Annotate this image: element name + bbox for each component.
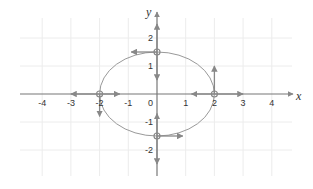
x-tick-label: 1: [183, 98, 188, 108]
grid: [20, 18, 292, 176]
y-axis-label: y: [145, 5, 152, 19]
y-tick-label: -1: [145, 117, 153, 127]
x-axis-label: x: [295, 89, 302, 103]
x-tick-label: 2: [212, 98, 217, 108]
origin-label: 0: [148, 98, 153, 108]
x-tick-label: -1: [124, 98, 132, 108]
y-tick-label: 2: [148, 33, 153, 43]
tick-labels: -4-3-2-1123421-1-20xy: [38, 5, 302, 155]
y-tick-label: 1: [148, 61, 153, 71]
x-tick-label: -3: [67, 98, 75, 108]
ellipse-plot: -4-3-2-1123421-1-20xy: [0, 0, 313, 189]
x-tick-label: 3: [241, 98, 246, 108]
x-tick-label: -2: [96, 98, 104, 108]
y-tick-label: -2: [145, 145, 153, 155]
x-tick-label: -4: [38, 98, 46, 108]
x-tick-label: 4: [269, 98, 274, 108]
